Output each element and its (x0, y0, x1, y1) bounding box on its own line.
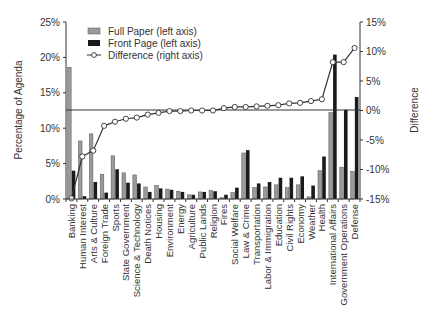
bar-front-page (300, 176, 304, 199)
bar-front-page (192, 195, 196, 199)
bar-full-paper (187, 195, 191, 199)
x-tick-label: Weather (306, 204, 317, 240)
bars-layer (68, 55, 359, 199)
bar-full-paper (155, 186, 159, 199)
bar-full-paper (100, 174, 104, 199)
bar-front-page (322, 157, 326, 199)
x-tick-label: State Government (120, 204, 131, 281)
x-tick-label: Banking (66, 204, 77, 238)
difference-marker (243, 104, 248, 109)
x-tick-label: Transportation (251, 204, 262, 265)
x-tick-label: Education (273, 204, 284, 246)
difference-marker (200, 108, 205, 113)
difference-marker (145, 112, 150, 117)
difference-marker (298, 100, 303, 105)
bar-front-page (202, 192, 206, 199)
bar-full-paper (264, 187, 268, 199)
bar-front-page (333, 55, 337, 199)
bar-full-paper (340, 167, 344, 199)
difference-marker (167, 108, 172, 113)
x-tick-label: Health (316, 204, 327, 231)
bar-full-paper (198, 192, 202, 199)
y-axis-title: Percentage of Agenda (13, 60, 24, 159)
y-tick-label: 5% (46, 158, 61, 169)
x-tick-label: Fires (218, 204, 229, 225)
difference-marker (112, 119, 117, 124)
bar-full-paper (296, 185, 300, 199)
bar-full-paper (253, 188, 257, 199)
bar-front-page (290, 178, 294, 199)
x-tick-label: Death Notices (142, 204, 153, 264)
difference-marker (134, 115, 139, 120)
y2-tick-label: -5% (366, 135, 384, 146)
bar-front-page (279, 178, 283, 199)
bar-front-page (344, 110, 348, 199)
x-tick-label: International Affairs (327, 204, 338, 285)
x-axis-labels: BankingHuman InterestArts & CultureForei… (66, 204, 360, 306)
bar-front-page (159, 188, 163, 199)
bar-front-page (213, 191, 217, 199)
difference-marker (69, 196, 74, 201)
bar-full-paper (351, 171, 355, 199)
chart: 0%5%10%15%20%25%-15%-10%-5%0%5%10%15% Ba… (0, 0, 438, 320)
difference-marker (254, 104, 259, 109)
y-tick-label: 10% (40, 123, 60, 134)
bar-full-paper (285, 188, 289, 199)
bar-full-paper (111, 156, 115, 199)
bar-full-paper (242, 153, 246, 199)
bar-full-paper (166, 189, 170, 199)
difference-marker (156, 110, 161, 115)
difference-marker (341, 60, 346, 65)
bar-full-paper (318, 171, 322, 199)
bar-full-paper (231, 193, 235, 199)
x-tick-label: Civil Rights (284, 204, 295, 252)
x-tick-label: Economy (295, 204, 306, 244)
legend-label: Difference (right axis) (108, 50, 203, 61)
legend: Full Paper (left axis)Front Page (left a… (87, 26, 203, 61)
x-tick-label: Labor & Immigration (262, 204, 273, 290)
difference-marker (210, 108, 215, 113)
legend-label: Full Paper (left axis) (108, 26, 197, 37)
x-tick-label: Law & Crime (240, 204, 251, 258)
bar-front-page (94, 182, 98, 199)
bar-front-page (126, 183, 130, 199)
x-tick-label: Sports (110, 204, 121, 232)
x-tick-label: Arts & Culture (88, 204, 99, 263)
y-tick-label: 15% (40, 87, 60, 98)
difference-marker (102, 123, 107, 128)
bar-front-page (170, 190, 174, 199)
bar-full-paper (329, 113, 333, 199)
y2-axis-title: Difference (409, 87, 420, 133)
bar-full-paper (274, 185, 278, 199)
bar-front-page (355, 97, 359, 199)
y-tick-label: 20% (40, 52, 60, 63)
bar-full-paper (122, 173, 126, 199)
legend-swatch-front-page (88, 40, 100, 46)
difference-marker (80, 154, 85, 159)
bar-front-page (311, 186, 315, 199)
difference-marker (91, 148, 96, 153)
bar-front-page (268, 182, 272, 199)
difference-marker (123, 116, 128, 121)
bar-full-paper (176, 191, 180, 199)
y-tick-label: 0% (46, 194, 61, 205)
difference-marker (352, 45, 357, 50)
difference-marker (265, 103, 270, 108)
difference-marker (330, 60, 335, 65)
x-tick-label: Defense (349, 204, 360, 239)
y2-tick-label: 15% (366, 17, 386, 28)
bar-full-paper (133, 175, 137, 199)
bar-front-page (115, 169, 119, 199)
bar-front-page (104, 193, 108, 199)
x-tick-label: Housing (153, 204, 164, 239)
bar-full-paper (144, 187, 148, 199)
x-tick-label: Government Operations (338, 204, 349, 306)
y2-tick-label: 10% (366, 46, 386, 57)
difference-marker (308, 98, 313, 103)
x-tick-label: Energy (175, 204, 186, 234)
x-tick-label: Social Welfare (229, 204, 240, 265)
legend-label: Front Page (left axis) (108, 38, 201, 49)
x-tick-label: Public Lands (197, 204, 208, 259)
bar-full-paper (89, 134, 93, 199)
x-tick-label: Religion (208, 204, 219, 238)
